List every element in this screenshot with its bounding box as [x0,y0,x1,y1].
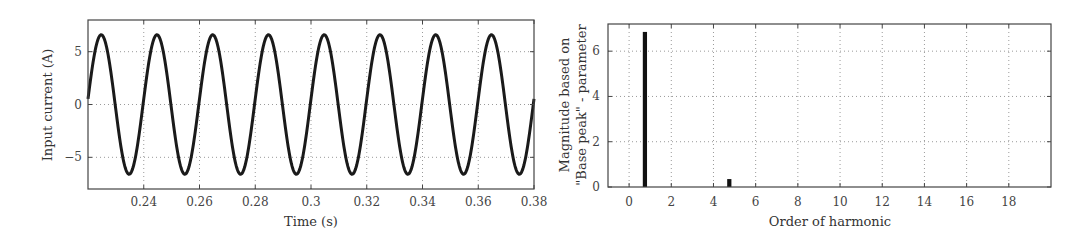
x-tick-label: 0.34 [409,195,436,209]
x-tick-label: 10 [832,195,847,209]
right-y-axis-title-line-2: "Base peak" - parameter [574,24,589,186]
left-x-tick-labels: 0.240.260.280.30.320.340.360.38 [130,195,547,209]
x-tick-label: 12 [875,195,890,209]
y-tick-label: 0 [74,98,82,112]
x-tick-label: 6 [752,195,760,209]
y-tick-label: 2 [592,135,600,149]
x-tick-label: 4 [710,195,718,209]
right-y-tick-labels: 0246 [592,44,600,194]
x-tick-label: 0.3 [301,195,320,209]
y-tick-label: −5 [64,150,82,164]
harmonic-bar [643,32,647,187]
harmonic-bar [727,179,731,187]
x-tick-label: 14 [917,195,933,209]
x-tick-label: 0.24 [130,195,157,209]
harmonic-bars [643,32,732,187]
right-y-axis-title-line-1: Magnitude based on [557,37,572,172]
left-x-axis-title: Time (s) [284,214,338,229]
input-current-line [88,35,534,174]
x-tick-label: 2 [667,195,675,209]
figure: 0.240.260.280.30.320.340.360.38 −505 Tim… [0,0,1090,239]
x-tick-label: 16 [959,195,974,209]
harmonic-spectrum-chart: 024681012141618 0246 Order of harmonic M… [557,24,1051,229]
y-tick-label: 5 [74,45,82,59]
input-current-chart: 0.240.260.280.30.320.340.360.38 −505 Tim… [40,20,547,229]
x-tick-label: 0.28 [242,195,269,209]
right-plot-frame [608,24,1051,187]
x-tick-label: 0.26 [186,195,213,209]
right-grid [608,24,1051,187]
left-y-axis-title: Input current (A) [40,49,55,162]
right-x-axis-title: Order of harmonic [769,214,891,229]
left-y-tick-labels: −505 [64,45,82,165]
x-tick-label: 18 [1001,195,1016,209]
y-tick-label: 4 [592,89,600,103]
x-tick-label: 8 [794,195,802,209]
x-tick-label: 0.38 [521,195,548,209]
y-tick-label: 6 [592,44,600,58]
x-tick-label: 0.36 [465,195,492,209]
right-ticks [608,24,1051,187]
y-tick-label: 0 [592,180,600,194]
x-tick-label: 0 [625,195,633,209]
right-x-tick-labels: 024681012141618 [625,195,1016,209]
x-tick-label: 0.32 [353,195,380,209]
